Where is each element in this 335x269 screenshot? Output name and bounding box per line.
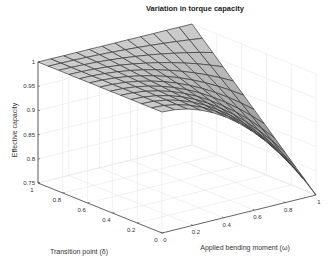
x-tick-label: 0.6 bbox=[253, 214, 262, 220]
x-axis-label: Applied bending moment (ω) bbox=[200, 244, 290, 252]
floor-grid-line bbox=[100, 168, 224, 218]
x-tick-mark bbox=[253, 209, 255, 210]
floor-grid-line bbox=[88, 165, 242, 203]
y-tick-label: 1 bbox=[30, 187, 34, 193]
z-axis-label: Effective capacity bbox=[11, 102, 19, 157]
surface-cell bbox=[293, 166, 316, 195]
y-tick-label: 0.6 bbox=[77, 207, 86, 213]
y-tick-label: 0.4 bbox=[102, 217, 111, 223]
z-tick-label: 0.95 bbox=[23, 83, 35, 89]
chart-title: Variation in torque capacity bbox=[146, 4, 245, 13]
floor-grid-line bbox=[137, 185, 291, 223]
x-tick-mark bbox=[222, 217, 224, 218]
x-tick-mark bbox=[284, 202, 286, 203]
x-tick-label: 0.8 bbox=[284, 207, 293, 213]
back-wall-grid-line bbox=[38, 145, 192, 183]
z-tick-label: 1 bbox=[32, 59, 36, 65]
surface-mesh bbox=[38, 24, 316, 195]
z-tick-label: 0.8 bbox=[27, 156, 36, 162]
floor-grid-line bbox=[112, 175, 266, 213]
y-axis-line bbox=[38, 183, 162, 233]
y-tick-label: 0.8 bbox=[53, 197, 62, 203]
x-tick-mark bbox=[191, 224, 193, 225]
y-tick-label: 0 bbox=[154, 237, 158, 243]
y-tick-mark bbox=[112, 213, 114, 214]
x-tick-label: 0.4 bbox=[222, 222, 231, 228]
z-tick-label: 0.75 bbox=[23, 180, 35, 186]
floor-grid-line bbox=[63, 155, 217, 193]
surface-chart: 00.20.40.60.8100.20.40.60.810.750.80.850… bbox=[0, 0, 335, 269]
x-axis-line bbox=[162, 195, 316, 233]
floor-grid-line bbox=[130, 160, 254, 210]
z-tick-label: 0.85 bbox=[23, 132, 35, 138]
y-axis-label: Transition point (δ) bbox=[50, 248, 108, 256]
z-tick-label: 0.9 bbox=[27, 107, 36, 113]
x-tick-label: 1 bbox=[317, 199, 321, 205]
x-tick-label: 0.2 bbox=[192, 229, 201, 235]
y-tick-mark bbox=[88, 203, 90, 204]
back-wall-grid-line bbox=[38, 121, 192, 159]
x-tick-label: 0 bbox=[163, 237, 167, 243]
y-tick-label: 0.2 bbox=[127, 227, 136, 233]
